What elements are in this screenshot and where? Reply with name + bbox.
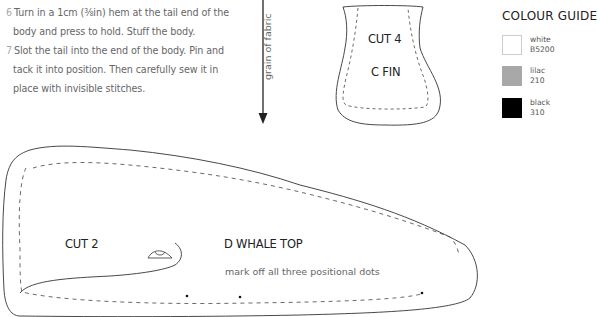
swatch-name: lilac <box>530 66 545 75</box>
swatch-label-white: whiteB5200 <box>530 35 555 55</box>
swatch-black <box>502 98 522 118</box>
swatch-name: white <box>530 35 551 44</box>
positional-dot <box>239 296 242 299</box>
whale-name-label: D WHALE TOP <box>224 237 303 251</box>
fin-cut-label: CUT 4 <box>368 32 401 46</box>
whale-cut-label: CUT 2 <box>65 237 98 251</box>
grain-label: grain of fabric <box>262 13 273 80</box>
swatch-name: black <box>530 98 550 107</box>
swatch-label-lilac: lilac210 <box>530 66 545 86</box>
swatch-code: 210 <box>530 76 545 85</box>
swatch-code: B5200 <box>530 45 555 54</box>
whale-top-pattern-piece <box>3 146 478 317</box>
whale-note: mark off all three positional dots <box>225 266 380 277</box>
positional-dots <box>186 292 424 299</box>
eye-marking-icon <box>148 251 172 258</box>
swatch-label-black: black310 <box>530 98 550 118</box>
swatch-white <box>502 35 522 55</box>
swatch-lilac <box>502 66 522 86</box>
positional-dot <box>421 292 424 295</box>
colour-guide-title: COLOUR GUIDE <box>502 9 597 23</box>
swatch-code: 310 <box>530 108 545 117</box>
positional-dot <box>186 295 189 298</box>
fin-name-label: C FIN <box>371 65 400 79</box>
